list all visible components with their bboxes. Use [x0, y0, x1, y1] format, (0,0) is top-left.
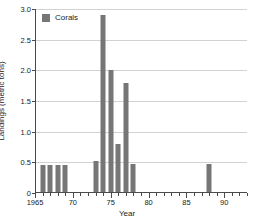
y-tick-label: 1.0 [21, 128, 31, 136]
plot-area: 00.51.01.52.02.53.0 [35, 9, 247, 193]
x-axis-title: Year [0, 209, 254, 218]
x-tick-mark-minor [217, 193, 218, 196]
y-tick-label: 2.5 [21, 36, 31, 44]
gridline [35, 70, 247, 71]
y-axis-title: Landings (metric tons) [0, 61, 6, 140]
x-tick-label: 85 [182, 199, 190, 207]
x-tick-label: 70 [69, 199, 77, 207]
bar [131, 164, 136, 193]
x-tick-mark-minor [179, 193, 180, 196]
gridline [35, 132, 247, 133]
x-tick-label: 90 [220, 199, 228, 207]
x-tick-mark-minor [156, 193, 157, 196]
x-tick-label: 75 [107, 199, 115, 207]
x-tick-mark-minor [118, 193, 119, 196]
bar [55, 165, 60, 193]
bar [207, 164, 212, 193]
x-tick-mark-minor [126, 193, 127, 196]
y-tick-label: 3.0 [21, 6, 31, 14]
x-tick-mark-minor [88, 193, 89, 196]
y-axis-line [35, 9, 36, 193]
x-tick-mark-minor [103, 193, 104, 196]
y-tick-label: 0 [27, 190, 31, 198]
x-tick-label: 1965 [27, 199, 44, 207]
x-tick-mark-minor [209, 193, 210, 196]
x-tick-label: 80 [144, 199, 152, 207]
bar [93, 161, 98, 193]
y-tick-label: 2.0 [21, 67, 31, 75]
bar [108, 70, 113, 193]
x-tick-mark-minor [247, 193, 248, 196]
x-tick-mark-minor [141, 193, 142, 196]
x-tick-mark-minor [50, 193, 51, 196]
x-tick-mark-minor [96, 193, 97, 196]
bar [40, 165, 45, 193]
bar [123, 83, 128, 193]
gridline [35, 162, 247, 163]
x-tick-mark-minor [65, 193, 66, 196]
coral-landings-bar-chart: Corals 00.51.01.52.02.53.0 1965707580859… [0, 0, 254, 222]
x-tick-mark-minor [232, 193, 233, 196]
x-tick-mark-minor [202, 193, 203, 196]
gridline [35, 40, 247, 41]
x-tick-mark-minor [43, 193, 44, 196]
x-tick-mark-minor [239, 193, 240, 196]
bar [116, 144, 121, 193]
x-tick-mark-minor [58, 193, 59, 196]
x-tick-mark-minor [133, 193, 134, 196]
bar [101, 15, 106, 193]
gridline [35, 9, 247, 10]
x-tick-mark-minor [164, 193, 165, 196]
x-tick-mark-minor [194, 193, 195, 196]
bar [63, 165, 68, 193]
x-tick-mark-minor [171, 193, 172, 196]
bar [48, 165, 53, 193]
gridline [35, 101, 247, 102]
y-tick-label: 0.5 [21, 159, 31, 167]
y-tick-label: 1.5 [21, 98, 31, 106]
x-tick-mark-minor [80, 193, 81, 196]
